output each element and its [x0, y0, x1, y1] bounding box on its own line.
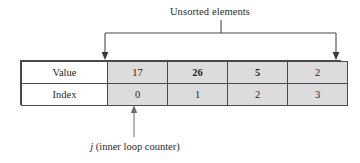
- index-cell-2: 2: [228, 84, 288, 106]
- row-label-index: Index: [22, 84, 108, 106]
- unsorted-elements-text: Unsorted elements: [110, 6, 250, 17]
- array-table: Value 17 26 5 2 Index 0 1 2 3: [20, 60, 341, 105]
- index-cell-0: 0: [108, 84, 168, 106]
- value-cell-1: 26: [168, 62, 228, 84]
- bracket-left-arrowhead: [102, 52, 109, 60]
- value-cell-0: 17: [108, 62, 168, 84]
- value-cell-3: 2: [288, 62, 348, 84]
- row-label-value: Value: [22, 62, 108, 84]
- insertion-sort-array-diagram: Unsorted elements Value 17 26 5 2: [0, 0, 360, 163]
- inner-loop-counter-text: (inner loop counter): [93, 141, 180, 152]
- unsorted-elements-label: Unsorted elements: [0, 6, 360, 17]
- value-cell-2: 5: [228, 62, 288, 84]
- inner-loop-counter-label: j (inner loop counter): [0, 141, 270, 152]
- index-cell-1: 1: [168, 84, 228, 106]
- table-row-index: Index 0 1 2 3: [22, 84, 348, 106]
- table-row-value: Value 17 26 5 2: [22, 62, 348, 84]
- bracket-right-arrowhead: [333, 52, 340, 60]
- index-cell-3: 3: [288, 84, 348, 106]
- j-pointer-arrowhead: [131, 105, 137, 113]
